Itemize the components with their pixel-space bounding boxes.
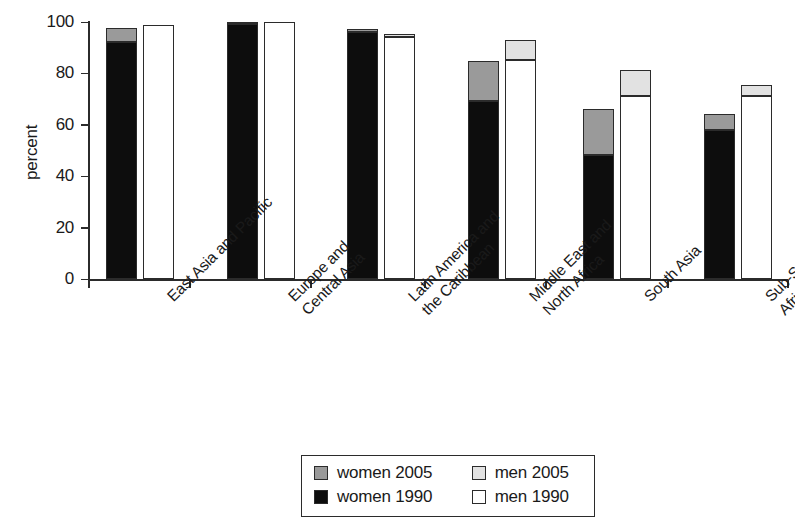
category-label-4: South Asia (640, 292, 653, 305)
bar-men-1990-3 (505, 60, 536, 279)
bar-women-2005-3 (468, 61, 499, 101)
bar-women-2005-0 (106, 28, 137, 42)
y-tick-label-20: 20 (28, 219, 74, 236)
legend-item-women-1990: women 1990 (314, 487, 446, 507)
bar-women-2005-4 (583, 109, 614, 155)
bar-men-1990-4 (620, 96, 651, 279)
bar-women-1990-5 (704, 130, 735, 279)
bar-women-1990-2 (347, 32, 378, 279)
y-tick-60 (81, 124, 88, 126)
category-label-line: South Asia (640, 292, 653, 305)
legend-item-women-2005: women 2005 (314, 463, 446, 483)
category-label-line: Sub-Saharan (761, 292, 774, 305)
category-label-1: Europe andCentral Asia (284, 292, 311, 319)
legend-swatch-men-2005 (472, 466, 486, 480)
category-label-line: Africa (774, 305, 787, 318)
y-tick-label-100: 100 (28, 13, 74, 30)
category-label-line: East Asia and Pacific (163, 292, 176, 305)
category-label-line: Latin America and (404, 292, 417, 305)
legend-item-men-1990: men 1990 (472, 487, 582, 507)
category-label-line: Central Asia (297, 305, 310, 318)
bar-women-1990-0 (106, 42, 137, 279)
legend-label-women-2005: women 2005 (337, 463, 432, 483)
legend-label-women-1990: women 1990 (337, 487, 432, 507)
legend-label-men-1990: men 1990 (495, 487, 569, 507)
y-tick-100 (81, 22, 88, 24)
category-label-3: Middle East andNorth Africa (525, 292, 552, 319)
y-tick-label-80: 80 (28, 64, 74, 81)
y-tick-20 (81, 227, 88, 229)
x-tick-0 (88, 280, 90, 288)
y-tick-label-0: 0 (28, 270, 74, 287)
bar-women-2005-5 (704, 114, 735, 129)
bar-men-2005-3 (505, 40, 536, 61)
bar-men-2005-4 (620, 70, 651, 96)
category-label-line: the Caribbean (417, 305, 430, 318)
y-tick-40 (81, 176, 88, 178)
y-tick-80 (81, 73, 88, 75)
category-label-line: North Africa (538, 305, 551, 318)
bar-men-1990-2 (384, 37, 415, 279)
legend-item-men-2005: men 2005 (472, 463, 582, 483)
legend-swatch-women-2005 (314, 466, 328, 480)
bar-men-1990-1 (264, 22, 295, 280)
category-label-2: Latin America andthe Caribbean (404, 292, 431, 319)
bar-chart: 100 80 60 40 20 0 percent East Asia and … (0, 0, 795, 519)
legend-swatch-men-1990 (472, 490, 486, 504)
y-axis-title: percent (22, 125, 42, 180)
y-axis-line (88, 21, 90, 280)
bar-men-1990-0 (143, 25, 174, 279)
plot-area: 100 80 60 40 20 0 percent East Asia and … (0, 0, 795, 300)
category-label-5: Sub-SaharanAfrica (761, 292, 788, 319)
legend-label-men-2005: men 2005 (495, 463, 569, 483)
category-label-line: Europe and (284, 292, 297, 305)
category-label-0: East Asia and Pacific (163, 292, 176, 305)
legend-swatch-women-1990 (314, 490, 328, 504)
chart-legend: women 2005 men 2005 women 1990 men 1990 (301, 455, 595, 517)
category-label-line: Middle East and (525, 292, 538, 305)
bar-men-1990-5 (741, 96, 772, 279)
bar-men-2005-5 (741, 85, 772, 97)
y-tick-0 (81, 279, 88, 281)
